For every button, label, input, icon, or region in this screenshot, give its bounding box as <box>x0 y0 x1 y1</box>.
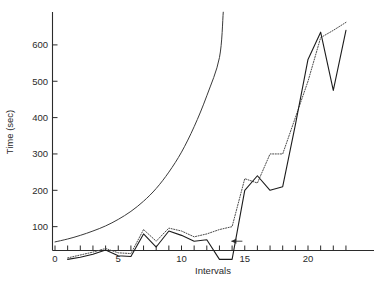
y-tick-label-100: 100 <box>32 221 48 232</box>
y-tick-label-500: 500 <box>32 76 48 87</box>
y-tick-label-300: 300 <box>32 148 48 159</box>
axes-group <box>53 12 375 251</box>
y-tick-label-200: 200 <box>32 185 48 196</box>
y-axis-title: Time (sec) <box>4 110 15 155</box>
y-tick-label-400: 400 <box>32 112 48 123</box>
x-tick-label-0: 0 <box>52 253 57 264</box>
y-tick-label-600: 600 <box>32 39 48 50</box>
arrow-head <box>231 239 236 244</box>
y-axis-ticks: 100200300400500600 <box>32 39 57 232</box>
x-tick-label-20: 20 <box>303 253 314 264</box>
series-path-dotted-series <box>68 22 346 258</box>
series-path-solid-series <box>68 30 346 259</box>
annotation-layer <box>231 239 242 244</box>
x-axis-title: Intervals <box>195 265 231 276</box>
series-layer <box>55 12 346 259</box>
chart-figure: 100200300400500600 05101520 Intervals Ti… <box>0 0 381 289</box>
line-chart-canvas: 100200300400500600 05101520 Intervals Ti… <box>0 0 381 289</box>
caption-fragment <box>0 280 381 289</box>
series-path-smooth-exponential <box>55 12 223 242</box>
x-tick-label-10: 10 <box>176 253 187 264</box>
x-axis-ticks: 05101520 <box>52 246 346 265</box>
left-arrow-marker <box>231 239 242 244</box>
x-tick-label-15: 15 <box>239 253 250 264</box>
